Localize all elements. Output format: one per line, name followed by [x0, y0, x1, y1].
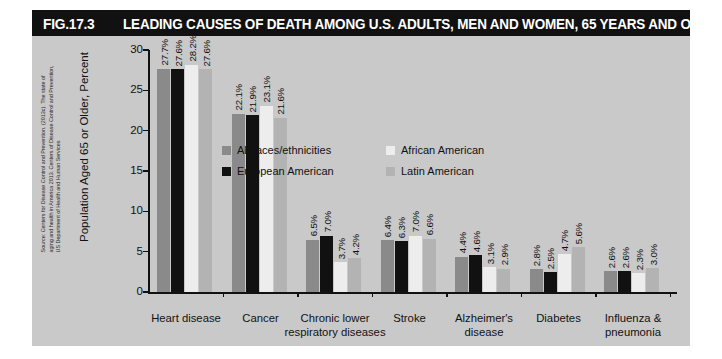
bar-value-label: 4.4% [456, 232, 467, 253]
bar-value-label: 4.7% [559, 230, 570, 251]
bar-value-label: 27.6% [200, 40, 211, 66]
figure-title-bar: FIG.17.3 LEADING CAUSES OF DEATH AMONG U… [32, 10, 690, 36]
x-tick-mark [670, 292, 672, 297]
bar-value-label: 6.4% [382, 216, 393, 237]
bar: 4.4% [455, 257, 468, 292]
bar: 7.0% [320, 236, 333, 292]
screenshot-root: FIG.17.3 LEADING CAUSES OF DEATH AMONG U… [0, 0, 722, 359]
bar: 28.2% [185, 65, 198, 292]
y-tick-mark [143, 170, 149, 172]
bar-value-label: 6.6% [424, 214, 435, 235]
y-tick-label: 25 [115, 83, 143, 95]
y-tick-mark [143, 211, 149, 213]
bar: 7.0% [409, 236, 422, 292]
bar-value-label: 2.8% [531, 245, 542, 266]
y-tick-mark [143, 90, 149, 92]
bar: 27.6% [171, 69, 184, 292]
bar-value-label: 21.9% [247, 86, 258, 112]
bar: 2.3% [632, 273, 645, 292]
x-tick-mark [521, 292, 523, 297]
legend-item: All races/ethnicities [222, 144, 372, 156]
bar: 4.7% [558, 254, 571, 292]
y-tick-label: 10 [115, 204, 143, 216]
y-tick-label: 30 [115, 43, 143, 55]
bar-value-label: 6.3% [396, 217, 407, 238]
legend-item: Latin American [386, 165, 536, 177]
figure-panel: FIG.17.3 LEADING CAUSES OF DEATH AMONG U… [32, 10, 690, 346]
y-tick-mark [143, 291, 149, 293]
y-tick-label: 0 [115, 285, 143, 297]
y-tick-label: 20 [115, 124, 143, 136]
x-tick-mark [223, 292, 225, 297]
bar: 2.9% [497, 269, 510, 292]
bar: 6.4% [381, 240, 394, 292]
legend-item: African American [386, 144, 536, 156]
bar: 6.6% [423, 239, 436, 292]
bar: 2.8% [530, 269, 543, 292]
bar-value-label: 23.1% [261, 76, 272, 102]
y-tick-label: 5 [115, 245, 143, 257]
x-tick-mark [595, 292, 597, 297]
bar-value-label: 22.1% [233, 84, 244, 110]
legend-label: Latin American [401, 165, 474, 177]
bar-value-label: 2.5% [545, 248, 556, 269]
bar: 3.0% [646, 268, 659, 292]
bar-value-label: 2.3% [633, 249, 644, 270]
bar-value-label: 6.5% [307, 215, 318, 236]
chart-body: Source: Centers for Disease Control and … [32, 36, 690, 346]
bar: 3.1% [483, 267, 496, 292]
bar: 22.1% [232, 114, 245, 292]
bar-value-label: 7.0% [410, 211, 421, 232]
bar-value-label: 21.6% [275, 88, 286, 114]
bar-value-label: 3.0% [647, 244, 658, 265]
figure-title: LEADING CAUSES OF DEATH AMONG U.S. ADULT… [123, 15, 718, 32]
x-tick-mark [297, 292, 299, 297]
legend-label: European American [237, 165, 334, 177]
bar: 6.5% [306, 240, 319, 292]
bar: 6.3% [395, 241, 408, 292]
bar-value-label: 2.6% [605, 247, 616, 268]
x-tick-mark [446, 292, 448, 297]
bar-value-label: 28.2% [186, 35, 197, 61]
bar: 2.5% [544, 272, 557, 292]
bar: 21.9% [246, 115, 259, 292]
figure-number: FIG.17.3 [43, 15, 94, 32]
bar-group: 2.6%2.6%2.3%3.0% [604, 50, 662, 292]
legend-swatch [222, 167, 231, 176]
bar-value-label: 3.1% [484, 243, 495, 264]
y-tick-mark [143, 49, 149, 51]
bar: 4.2% [348, 258, 361, 292]
y-axis-title: Population Aged 65 or Older, Percent [78, 47, 90, 247]
bar: 3.7% [334, 262, 347, 292]
bar-value-label: 2.9% [498, 244, 509, 265]
x-category-label-line: pneumonia [582, 326, 684, 340]
bar-value-label: 7.0% [321, 211, 332, 232]
x-tick-mark [372, 292, 374, 297]
legend-swatch [222, 146, 231, 155]
x-category-label-line: respiratory diseases [284, 326, 386, 340]
legend-swatch [386, 167, 395, 176]
source-note: Source: Centers for Disease Control and … [40, 62, 63, 252]
bar-value-label: 3.7% [335, 238, 346, 259]
y-tick-label: 15 [115, 164, 143, 176]
bar-group: 27.7%27.6%28.2%27.6% [157, 50, 215, 292]
bar-value-label: 5.6% [573, 223, 584, 244]
bar: 2.6% [618, 271, 631, 292]
legend-label: All races/ethnicities [237, 144, 331, 156]
bar: 5.6% [572, 247, 585, 292]
legend-swatch [386, 146, 395, 155]
bar-value-label: 27.6% [172, 40, 183, 66]
x-category-label-line: disease [433, 326, 535, 340]
bar-value-label: 4.2% [349, 234, 360, 255]
bar-value-label: 4.6% [470, 231, 481, 252]
bar: 27.7% [157, 69, 170, 292]
x-axis-line [148, 292, 677, 294]
chart-legend: All races/ethnicitiesAfrican AmericanEur… [222, 144, 537, 177]
bar: 2.6% [604, 271, 617, 292]
bar: 4.6% [469, 255, 482, 292]
x-category-label-line: Influenza & [582, 312, 684, 326]
bar: 23.1% [260, 106, 273, 292]
bar-group: 2.8%2.5%4.7%5.6% [530, 50, 588, 292]
legend-label: African American [401, 144, 484, 156]
bar-value-label: 27.7% [158, 39, 169, 65]
